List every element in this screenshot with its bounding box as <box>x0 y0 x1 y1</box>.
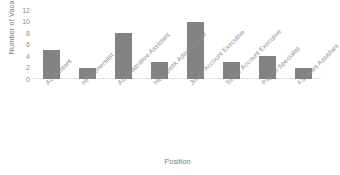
y-axis-tick-label: 2 <box>16 64 30 71</box>
x-axis-tick-labels: AccountantHR GeneralistAdministrative As… <box>33 81 321 147</box>
y-axis-tick-label: 6 <box>16 41 30 48</box>
y-axis-tick-label: 12 <box>16 7 30 14</box>
y-axis-title: Number of Vacancies <box>7 0 16 57</box>
y-axis-tick-labels: 121086420 <box>16 7 30 82</box>
y-axis-tick-label: 8 <box>16 30 30 37</box>
y-axis-tick-label: 4 <box>16 53 30 60</box>
y-axis-tick-label: 0 <box>16 76 30 83</box>
x-axis-title: Position <box>0 157 331 166</box>
y-axis-tick-label: 10 <box>16 18 30 25</box>
